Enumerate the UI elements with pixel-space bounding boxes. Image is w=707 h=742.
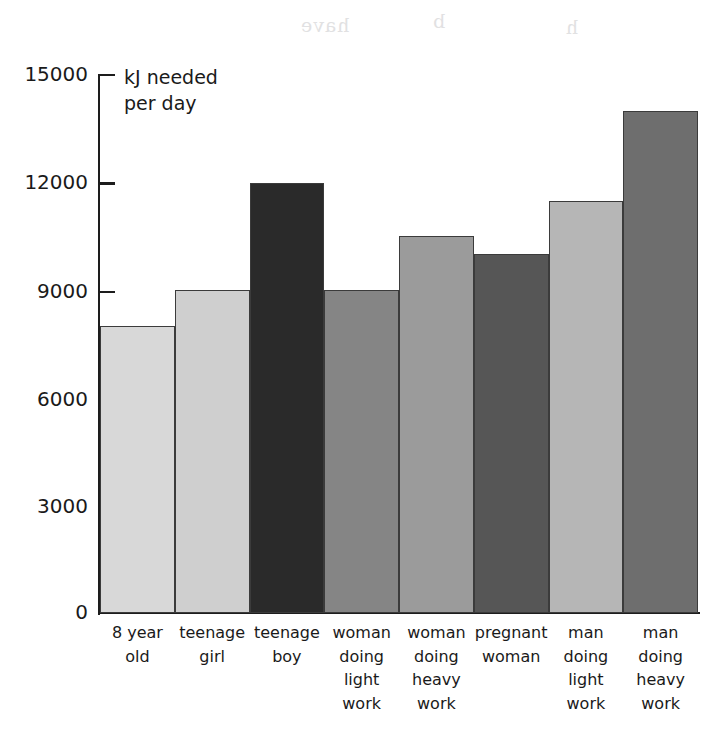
y-tick-label-6000: 6000 <box>2 389 88 409</box>
bar <box>324 290 399 613</box>
bar <box>623 111 698 613</box>
bar <box>100 326 175 613</box>
bar <box>399 236 474 613</box>
bars-group <box>100 0 698 613</box>
y-tick-label-3000: 3000 <box>2 496 88 516</box>
x-axis-labels: 8 year oldteenage girlteenage boywoman d… <box>100 621 698 736</box>
x-axis-label: man doing light work <box>549 621 624 715</box>
x-axis-label: woman doing heavy work <box>399 621 474 715</box>
x-axis-label: 8 year old <box>100 621 175 668</box>
bar <box>250 183 325 613</box>
y-axis-labels: 15000 12000 9000 6000 3000 0 <box>0 0 88 742</box>
y-tick-label-15000: 15000 <box>2 64 88 84</box>
x-axis-label: man doing heavy work <box>623 621 698 715</box>
x-axis-label: pregnant woman <box>474 621 549 668</box>
y-tick-label-0: 0 <box>2 602 88 622</box>
x-axis-label: teenage boy <box>250 621 325 668</box>
bar <box>175 290 250 613</box>
x-axis-label: woman doing light work <box>324 621 399 715</box>
x-axis-label: teenage girl <box>175 621 250 668</box>
y-tick-label-12000: 12000 <box>2 172 88 192</box>
y-tick-label-9000: 9000 <box>2 281 88 301</box>
bar-chart: have b h 15000 12000 9000 6000 3000 0 kJ… <box>0 0 707 742</box>
bar <box>549 201 624 613</box>
bar <box>474 254 549 613</box>
